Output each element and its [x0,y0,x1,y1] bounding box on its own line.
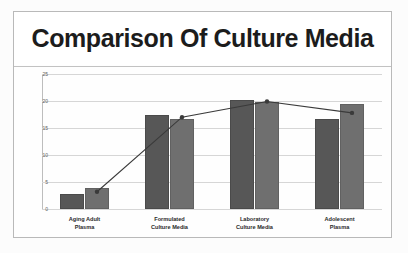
y-axis-tick-label: 20 [28,98,48,104]
chart-title-band: Comparison Of Culture Media [14,12,391,65]
x-axis-category-label: FormulatedCulture Media [127,215,212,232]
plot-canvas [42,74,382,209]
line-marker [265,99,269,103]
y-axis-tick-label: 5 [28,179,48,185]
title-divider [14,66,391,67]
x-axis-category-label: Aging AdultPlasma [42,215,127,232]
trend-line [97,102,352,192]
line-marker [95,190,99,194]
overlay-line-layer [42,74,382,210]
y-axis-tick-label: 0 [28,206,48,212]
screenshot-root: Comparison Of Culture Media 0510152025 A… [0,0,408,253]
x-axis-labels: Aging AdultPlasmaFormulatedCulture Media… [42,215,382,237]
line-marker [350,111,354,115]
page-title: Comparison Of Culture Media [31,24,373,53]
y-axis-tick-label: 25 [28,71,48,77]
y-axis-tick-label: 10 [28,152,48,158]
y-axis-tick-label: 15 [28,125,48,131]
line-marker [180,115,184,119]
plot-area: 0510152025 Aging AdultPlasmaFormulatedCu… [14,68,391,237]
x-axis-category-label: LaboratoryCulture Media [212,215,297,232]
x-axis-category-label: AdolescentPlasma [297,215,382,232]
